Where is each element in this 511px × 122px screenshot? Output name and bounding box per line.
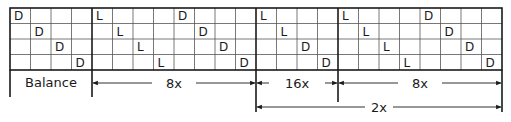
dimension-annotations: Balance8x16x8x2x: [25, 75, 501, 115]
cell-light: L: [404, 56, 411, 70]
cell-dark: D: [322, 56, 331, 70]
cell-light: L: [363, 25, 370, 39]
cell-dark: D: [240, 56, 249, 70]
cell-dark: D: [55, 40, 64, 54]
cell-light: L: [158, 56, 165, 70]
span-label: 2x: [371, 100, 387, 115]
cell-light: L: [96, 9, 103, 23]
cell-dark: D: [465, 40, 474, 54]
cycle-diagram: DLDLLDDLDLLDDLDDLDDLDDLD Balance8x16x8x2…: [0, 0, 511, 122]
balance-label: Balance: [25, 75, 77, 90]
cell-dark: D: [424, 9, 433, 23]
cell-dark: D: [14, 9, 23, 23]
cell-dark: D: [445, 25, 454, 39]
cell-light: L: [383, 40, 390, 54]
cell-dark: D: [178, 9, 187, 23]
cell-light: L: [137, 40, 144, 54]
section-label: 16x: [285, 76, 310, 91]
cell-dark: D: [199, 25, 208, 39]
cell-dark: D: [486, 56, 495, 70]
section-label: 8x: [166, 76, 182, 91]
cell-dark: D: [35, 25, 44, 39]
cell-dark: D: [219, 40, 228, 54]
cell-light: L: [117, 25, 124, 39]
cell-dark: D: [301, 40, 310, 54]
section-label: 8x: [412, 76, 428, 91]
cell-light: L: [260, 9, 267, 23]
cell-light: L: [281, 25, 288, 39]
cell-dark: D: [76, 56, 85, 70]
cell-light: L: [342, 9, 349, 23]
